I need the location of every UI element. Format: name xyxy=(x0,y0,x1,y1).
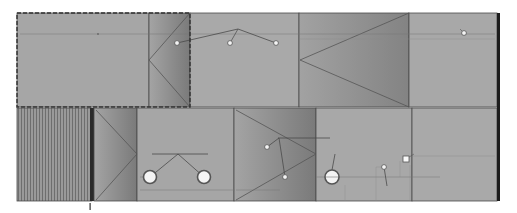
knob[interactable] xyxy=(144,171,157,184)
handle-marker[interactable] xyxy=(283,175,288,180)
panel-f-fluted[interactable] xyxy=(17,108,92,201)
panel-h[interactable] xyxy=(137,108,234,201)
panel-a[interactable] xyxy=(17,13,149,107)
handle-marker[interactable] xyxy=(228,41,233,46)
knob[interactable] xyxy=(325,170,339,184)
panel-c[interactable] xyxy=(190,13,299,107)
handle-marker[interactable] xyxy=(265,145,270,150)
knob[interactable] xyxy=(198,171,211,184)
handle-marker[interactable] xyxy=(274,41,279,46)
panel-d-door[interactable] xyxy=(299,13,409,107)
insertion-marker xyxy=(90,203,91,210)
panel-b-door[interactable] xyxy=(149,13,190,107)
dark-divider xyxy=(90,108,94,201)
panel-i-door[interactable] xyxy=(234,108,316,201)
bottom-row xyxy=(17,108,497,201)
handle-marker[interactable] xyxy=(462,31,467,36)
right-edge-bar xyxy=(497,13,500,201)
dimension-dot xyxy=(97,33,99,35)
panel-g-door[interactable] xyxy=(94,108,137,201)
panel-k[interactable] xyxy=(412,108,497,201)
panel-e[interactable] xyxy=(409,13,497,107)
grip-square[interactable] xyxy=(403,156,409,162)
panel-j[interactable] xyxy=(316,108,412,201)
handle-marker[interactable] xyxy=(175,41,180,46)
handle-marker[interactable] xyxy=(382,165,387,170)
top-row xyxy=(17,13,497,107)
cad-elevation-drawing xyxy=(0,0,517,213)
